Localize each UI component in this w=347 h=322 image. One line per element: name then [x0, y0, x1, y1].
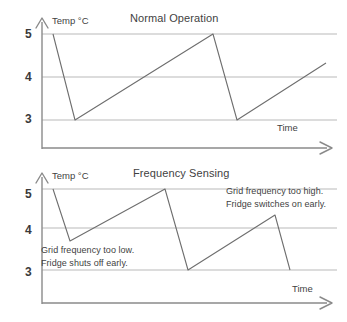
- chart-top-x-axis-label: Time: [277, 123, 298, 133]
- annotation-low-frequency-line-1: Grid frequency too low.: [41, 246, 134, 255]
- chart-top-tick-4: 4: [25, 71, 32, 83]
- chart-bottom-title: Frequency Sensing: [133, 168, 229, 179]
- annotation-low-frequency-line-2: Fridge shuts off early.: [41, 259, 128, 268]
- chart-top-title: Normal Operation: [130, 13, 218, 24]
- chart-bottom-tick-3: 3: [25, 266, 32, 278]
- chart-top-x-axis: [42, 142, 332, 154]
- chart-top-y-axis-label: Temp °C: [52, 16, 89, 26]
- chart-bottom-x-axis-label: Time: [292, 284, 313, 294]
- annotation-high-frequency-line-1: Grid frequency too high.: [226, 187, 323, 196]
- chart-top-tick-3: 3: [25, 113, 32, 125]
- chart-bottom-tick-5: 5: [25, 188, 32, 200]
- figure-container: Normal Operation Temp °C Time 5 4 3 Freq…: [0, 0, 347, 322]
- chart-bottom-x-axis: [42, 297, 332, 309]
- charts-vector-layer: [0, 0, 347, 322]
- chart-top-tick-5: 5: [25, 28, 32, 40]
- chart-bottom-tick-4: 4: [25, 224, 32, 236]
- chart-bottom-y-axis-label: Temp °C: [52, 171, 89, 181]
- chart-top-y-axis: [36, 18, 48, 149]
- chart-top-gridlines: [42, 34, 337, 120]
- annotation-high-frequency-line-2: Fridge switches on early.: [226, 200, 326, 209]
- chart-top-normal-operation: [36, 18, 337, 154]
- chart-bottom-y-axis: [36, 173, 48, 304]
